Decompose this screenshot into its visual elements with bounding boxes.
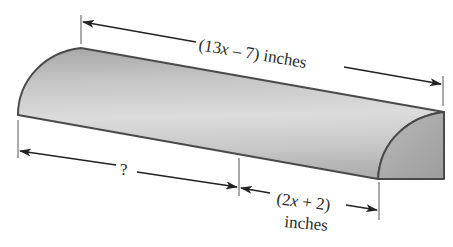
known-dimension-arrow-right — [346, 205, 377, 210]
top-dimension-arrow-right — [344, 67, 441, 84]
unknown-length-label: ? — [120, 160, 128, 179]
total-length-label: (13x – 7) inches — [197, 35, 308, 72]
top-dimension-arrow-left — [83, 22, 196, 42]
unknown-dimension-arrow-right — [137, 172, 237, 187]
molding-body — [18, 48, 444, 179]
known-length-label: (2x + 2) — [276, 189, 332, 214]
known-dimension-arrow-left — [241, 188, 270, 193]
known-length-unit-label: inches — [284, 212, 329, 235]
unknown-dimension-arrow-left — [20, 151, 116, 165]
molding-diagram: (13x – 7) inches ? (2x + 2) inches — [0, 0, 453, 247]
diagram-stage: (13x – 7) inches ? (2x + 2) inches — [0, 0, 453, 247]
